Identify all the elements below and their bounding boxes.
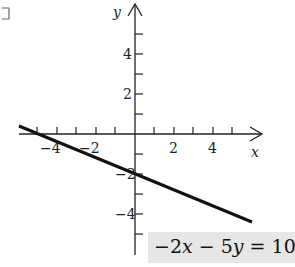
x-tick-label-m4: −4 [40,140,61,156]
x-axis-label: x [251,144,259,160]
eq-part: − 5 [193,235,233,257]
equation-label: −2x − 5y = 10 [154,235,295,257]
x-tick-label-2: 2 [169,140,178,156]
eq-var-x: x [182,235,193,257]
y-axis-label: y [112,4,122,20]
y-tick-label-2: 2 [123,86,132,102]
chart-canvas: y x −4 −2 2 4 4 2 −2 −4 [0,0,295,267]
x-tick-label-m2: −2 [79,140,100,156]
x-tick-label-4: 4 [208,140,217,156]
eq-var-y: y [233,235,244,257]
eq-part: = 10 [244,235,295,257]
graph-figure: y x −4 −2 2 4 4 2 −2 −4 −2x − 5y = 10 [0,0,295,267]
y-tick-label-m2: −2 [115,166,136,182]
y-tick-label-4: 4 [123,46,132,62]
y-tick-label-m4: −4 [115,206,136,222]
bracket-fragment [2,8,9,19]
eq-part: −2 [154,235,182,257]
